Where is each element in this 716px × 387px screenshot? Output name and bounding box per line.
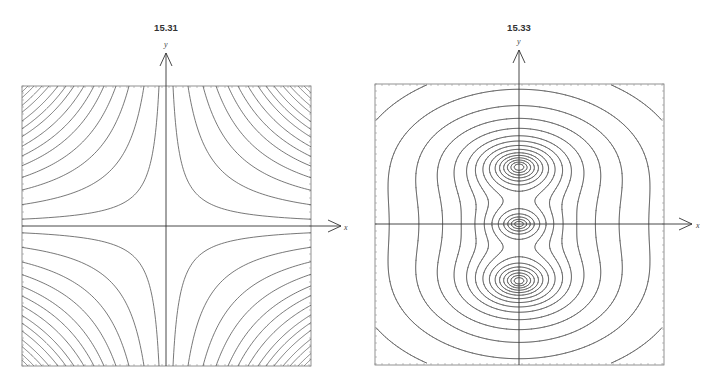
contour-plots-canvas xyxy=(0,0,716,387)
y-axis-label-right: y xyxy=(517,37,521,46)
y-axis-label-left: y xyxy=(164,40,168,49)
frame-ticks-right xyxy=(375,84,664,365)
x-axis-label-right: x xyxy=(696,221,700,230)
figure: 15.31 x y 15.33 x y xyxy=(0,0,716,387)
plot-frame-right xyxy=(375,84,664,365)
plot-title-left: 15.31 xyxy=(154,22,178,33)
plot-title-right: 15.33 xyxy=(507,22,531,33)
x-axis-label-left: x xyxy=(344,223,348,232)
